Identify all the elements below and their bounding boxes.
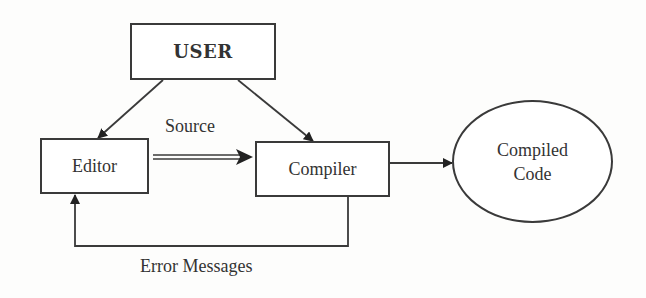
node-user: USER (130, 23, 276, 80)
arrow-error-loop-compiler-to-editor (75, 195, 348, 246)
node-compiler: Compiler (255, 141, 390, 197)
node-compiler-label: Compiler (289, 159, 357, 180)
arrow-user-to-editor (98, 80, 163, 138)
node-user-label: USER (173, 41, 232, 62)
diagram-canvas: USER Editor Compiler Compiled Code Sourc… (0, 0, 646, 298)
arrow-source-editor-to-compiler (153, 149, 253, 165)
node-editor: Editor (40, 138, 149, 194)
node-editor-label: Editor (72, 156, 117, 177)
node-compiled-code-line1: Compiled (497, 138, 568, 162)
arrow-user-to-compiler (238, 80, 313, 141)
edge-label-source: Source (165, 116, 215, 137)
node-compiled-code: Compiled Code (452, 100, 613, 223)
edge-label-error-messages: Error Messages (140, 256, 252, 277)
node-compiled-code-line2: Code (514, 162, 552, 186)
